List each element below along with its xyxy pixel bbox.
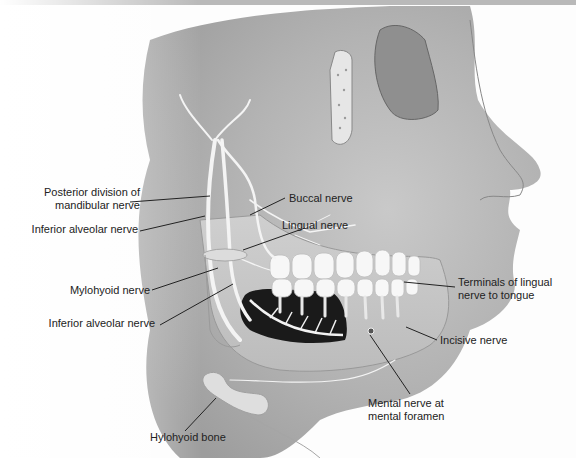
label-inferior-alveolar-nerve-upper: Inferior alveolar nerve (8, 223, 138, 236)
label-inferior-alveolar-nerve-lower: Inferior alveolar nerve (0, 317, 155, 330)
nerve-cross-section (203, 249, 247, 261)
label-lingual-nerve: Lingual nerve (282, 219, 348, 232)
label-posterior-division: Posterior division of mandibular nerve (20, 186, 140, 212)
zygomatic-bone (330, 50, 352, 144)
label-terminals-lingual-nerve: Terminals of lingual nerve to tongue (458, 276, 552, 302)
mental-foramen (368, 328, 374, 334)
anatomy-figure: Posterior division of mandibular nerve B… (0, 0, 576, 458)
label-incisive-nerve: Incisive nerve (440, 334, 507, 347)
label-mental-nerve: Mental nerve at mental foramen (368, 397, 444, 423)
label-mylohyoid-nerve: Mylohyoid nerve (20, 284, 150, 297)
label-buccal-nerve: Buccal nerve (289, 192, 353, 205)
label-hyoid-bone: Hylohyoid bone (150, 431, 226, 444)
